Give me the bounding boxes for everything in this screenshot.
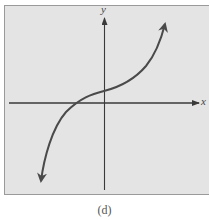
y-axis-label: y (101, 4, 106, 15)
plot-frame (5, 6, 210, 195)
figure-caption: (d) (0, 203, 209, 217)
figure: y x (d) (0, 0, 209, 220)
plot-area (0, 0, 209, 220)
x-axis-label: x (201, 96, 206, 107)
